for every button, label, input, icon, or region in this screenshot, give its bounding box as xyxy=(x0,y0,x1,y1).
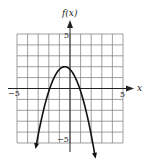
x-axis-arrow-icon xyxy=(126,86,134,92)
y-tick-min: −5 xyxy=(57,135,69,144)
y-axis-label: f(x) xyxy=(61,8,78,18)
curve-right-arrow-icon xyxy=(92,152,97,158)
x-tick-max: 5 xyxy=(120,90,125,99)
curve-left-arrow-icon xyxy=(34,143,39,149)
x-tick-min: −5 xyxy=(8,89,20,98)
y-axis-arrow-icon xyxy=(67,20,73,28)
parabola-graph: f(x) x −5 5 5 −5 xyxy=(0,0,152,160)
x-axis-label: x xyxy=(137,83,142,93)
y-tick-max: 5 xyxy=(64,31,69,40)
